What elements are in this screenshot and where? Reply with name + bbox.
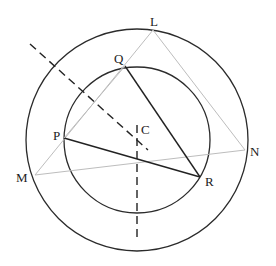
- dashed-bisector-diagonal: [30, 44, 148, 150]
- label-r: R: [205, 174, 214, 189]
- label-l: L: [150, 14, 158, 29]
- segment-qr: [125, 66, 200, 177]
- label-n: N: [250, 144, 260, 159]
- label-p: P: [53, 128, 60, 143]
- segment-mn: [35, 150, 245, 175]
- label-c-center: C: [141, 122, 150, 137]
- label-q: Q: [114, 51, 124, 66]
- geometry-diagram: L M N Q P R C: [0, 0, 276, 266]
- label-m: M: [16, 170, 28, 185]
- segment-qp: [64, 66, 125, 138]
